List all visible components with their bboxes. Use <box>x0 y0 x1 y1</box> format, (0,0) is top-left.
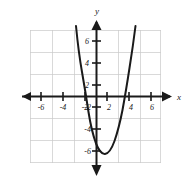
y-tick-label-neg4: -4 <box>84 125 91 134</box>
y-tick-label-pos6: 6 <box>85 37 89 46</box>
y-tick-label-pos4: 4 <box>85 59 89 68</box>
coordinate-plane-svg: -6 -4 -2 2 4 6 6 4 2 -2 -4 -6 x y <box>0 0 191 187</box>
x-axis-label: x <box>176 92 181 102</box>
x-tick-label-pos4: 4 <box>129 103 133 112</box>
x-tick-label-pos6: 6 <box>150 103 154 112</box>
x-tick-label-neg4: -4 <box>60 103 67 112</box>
graph-figure: -6 -4 -2 2 4 6 6 4 2 -2 -4 -6 x y <box>0 0 191 187</box>
x-tick-label-neg6: -6 <box>38 103 45 112</box>
x-tick-label-pos2: 2 <box>107 103 111 112</box>
y-axis-label: y <box>94 6 99 16</box>
y-tick-label-neg6: -6 <box>84 147 91 156</box>
